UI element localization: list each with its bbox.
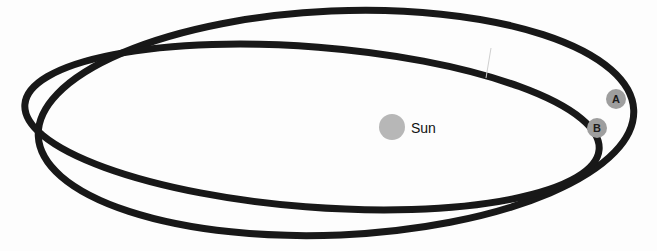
orbit-path-inner[interactable]	[19, 25, 606, 230]
orbit-diagram: Sun A B	[0, 0, 657, 251]
orbit-canvas: Sun A B	[0, 0, 657, 251]
marker-a-label: A	[612, 93, 620, 105]
sun-icon	[379, 114, 405, 140]
marker-b-label: B	[593, 122, 601, 134]
sun-label: Sun	[411, 120, 436, 136]
